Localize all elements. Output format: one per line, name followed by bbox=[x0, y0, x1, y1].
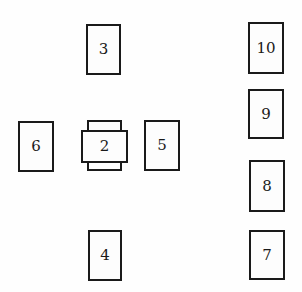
card-spread-diagram: 1 2 3 4 5 6 7 8 9 10 bbox=[0, 0, 302, 292]
card-8-label: 8 bbox=[262, 179, 272, 194]
card-6: 6 bbox=[18, 121, 54, 172]
card-5-label: 5 bbox=[157, 138, 167, 153]
card-2: 2 bbox=[81, 130, 128, 163]
card-4: 4 bbox=[88, 230, 122, 281]
card-4-label: 4 bbox=[100, 248, 110, 263]
card-6-label: 6 bbox=[31, 139, 41, 154]
card-7: 7 bbox=[249, 230, 285, 280]
card-9: 9 bbox=[248, 89, 284, 139]
card-3: 3 bbox=[86, 24, 121, 75]
card-7-label: 7 bbox=[262, 248, 272, 263]
card-8: 8 bbox=[249, 160, 285, 212]
card-5: 5 bbox=[144, 120, 180, 171]
card-2-label: 2 bbox=[100, 139, 110, 154]
card-10: 10 bbox=[248, 22, 284, 74]
card-10-label: 10 bbox=[256, 41, 275, 56]
card-9-label: 9 bbox=[261, 107, 271, 122]
card-3-label: 3 bbox=[99, 42, 109, 57]
